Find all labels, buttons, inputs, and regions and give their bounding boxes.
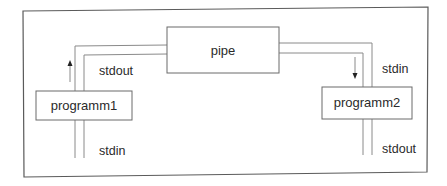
- pipe-diagram: pipe programm1 programm2 stdout stdin st…: [0, 0, 447, 186]
- pipe-label: pipe: [211, 43, 236, 58]
- programm2-stdin-label: stdin: [382, 62, 408, 76]
- programm2-stdout-label: stdout: [382, 142, 417, 156]
- programm2-label: programm2: [334, 95, 400, 110]
- programm1-stdin-label: stdin: [99, 144, 125, 158]
- programm2-node: programm2: [322, 87, 412, 119]
- arrow-up-icon: [68, 60, 73, 82]
- programm1-label: programm1: [51, 98, 117, 113]
- arrow-down-icon: [353, 57, 358, 79]
- programm1-stdout-label: stdout: [99, 64, 134, 78]
- pipe-node: pipe: [167, 27, 279, 73]
- programm1-node: programm1: [36, 91, 132, 120]
